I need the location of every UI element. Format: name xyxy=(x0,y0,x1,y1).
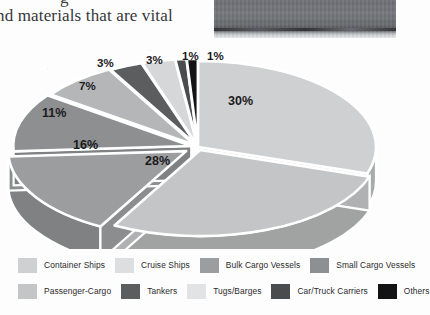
slice-percent-label-8: 1% xyxy=(207,50,224,62)
slice-percent-label-1: 28% xyxy=(145,154,170,168)
seascape-photo xyxy=(214,0,396,38)
legend-swatch-icon xyxy=(200,258,219,273)
pie-chart-svg xyxy=(0,44,396,249)
legend-label: Tugs/Barges xyxy=(213,286,261,296)
legend-item-tugs-barges[interactable]: Tugs/Barges xyxy=(187,284,261,299)
legend-label: Tankers xyxy=(147,286,177,296)
body-text-line: nd materials that are vital xyxy=(0,6,173,26)
pie-chart: 30%28%16%11%7%3%3%1%1% xyxy=(0,44,396,249)
legend-label: Others xyxy=(404,286,430,296)
legend-swatch-icon xyxy=(121,284,140,299)
chart-legend: Container ShipsCruise ShipsBulk Cargo Ve… xyxy=(0,252,396,315)
legend-row-1: Container ShipsCruise ShipsBulk Cargo Ve… xyxy=(0,252,396,278)
document-text-fragment: g nd materials that are vital xyxy=(0,0,240,40)
legend-swatch-icon xyxy=(115,258,134,273)
legend-item-bulk-cargo-vessels[interactable]: Bulk Cargo Vessels xyxy=(200,258,300,273)
photo-grain-texture xyxy=(214,0,396,38)
legend-label: Bulk Cargo Vessels xyxy=(226,260,300,270)
legend-item-car-truck-carriers[interactable]: Car/Truck Carriers xyxy=(271,284,367,299)
photo-horizon-line xyxy=(214,28,396,31)
slice-percent-label-2: 16% xyxy=(73,138,98,152)
legend-item-cruise-ships[interactable]: Cruise Ships xyxy=(115,258,190,273)
legend-swatch-icon xyxy=(18,258,37,273)
legend-item-others[interactable]: Others xyxy=(378,284,430,299)
legend-swatch-icon xyxy=(18,284,37,299)
pie-slices-group xyxy=(9,59,376,249)
legend-item-small-cargo-vessels[interactable]: Small Cargo Vessels xyxy=(310,258,415,273)
legend-swatch-icon xyxy=(310,258,329,273)
legend-label: Cruise Ships xyxy=(141,260,190,270)
legend-item-container-ships[interactable]: Container Ships xyxy=(18,258,105,273)
legend-label: Container Ships xyxy=(44,260,105,270)
legend-swatch-icon xyxy=(271,284,290,299)
slice-percent-label-5: 3% xyxy=(97,57,114,69)
legend-label: Passenger-Cargo xyxy=(44,286,111,296)
legend-item-passenger-cargo[interactable]: Passenger-Cargo xyxy=(18,284,111,299)
slice-percent-label-0: 30% xyxy=(228,94,253,108)
slice-percent-label-7: 1% xyxy=(182,50,199,62)
legend-swatch-icon xyxy=(187,284,206,299)
legend-swatch-icon xyxy=(378,284,397,299)
legend-row-2: Passenger-CargoTankersTugs/BargesCar/Tru… xyxy=(0,278,396,304)
slice-percent-label-3: 11% xyxy=(42,106,66,120)
legend-item-tankers[interactable]: Tankers xyxy=(121,284,177,299)
slice-percent-label-6: 3% xyxy=(146,54,163,66)
legend-label: Car/Truck Carriers xyxy=(297,286,367,296)
legend-label: Small Cargo Vessels xyxy=(336,260,415,270)
slice-percent-label-4: 7% xyxy=(79,80,96,92)
